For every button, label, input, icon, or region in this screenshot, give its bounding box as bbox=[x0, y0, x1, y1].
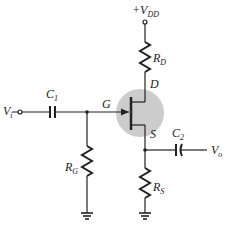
gate-label: G bbox=[102, 98, 111, 110]
vdd-terminal bbox=[143, 20, 147, 24]
vi-label: Vi bbox=[3, 105, 13, 120]
drain-label: D bbox=[150, 78, 159, 90]
vo-label: Vo bbox=[211, 144, 222, 159]
gate-node bbox=[85, 110, 89, 114]
ground-rs bbox=[139, 213, 151, 219]
c1-label: C1 bbox=[46, 88, 58, 103]
ground-rg bbox=[81, 213, 93, 219]
jfet-circuit-diagram: +VDD RD D G S C1 C2 Vi Vo RG RS bbox=[0, 0, 227, 230]
vi-terminal bbox=[18, 110, 22, 114]
vdd-label: +VDD bbox=[132, 4, 159, 19]
c2-label: C2 bbox=[172, 127, 184, 142]
c1-capacitor bbox=[50, 106, 55, 118]
source-label: S bbox=[150, 128, 156, 140]
rd-label: RD bbox=[153, 52, 166, 67]
rd-resistor bbox=[140, 42, 150, 72]
rs-resistor bbox=[140, 168, 150, 198]
rs-label: RS bbox=[153, 181, 164, 196]
rg-label: RG bbox=[65, 161, 78, 176]
rg-resistor bbox=[82, 146, 92, 176]
circuit-schematic bbox=[0, 0, 227, 230]
source-node bbox=[143, 148, 147, 152]
